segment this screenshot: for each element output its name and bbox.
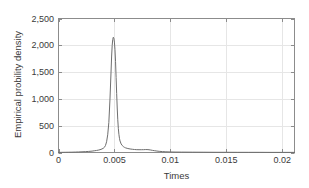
plot-canvas: [0, 0, 309, 188]
x-tick-label: 0.01: [162, 155, 180, 165]
x-tick-label: 0: [56, 155, 61, 165]
data-series-line: [59, 37, 295, 152]
x-tick-label: 0.02: [273, 155, 291, 165]
axis-frame: [59, 19, 295, 153]
x-tick-label: 0.005: [103, 155, 126, 165]
chart-figure: Empirical probility density 05001,0001,5…: [0, 0, 309, 188]
x-axis-label: Times: [58, 170, 295, 181]
gridlines: [59, 19, 295, 153]
x-tick-label: 0.015: [215, 155, 238, 165]
axis-tickmarks: [59, 19, 295, 154]
